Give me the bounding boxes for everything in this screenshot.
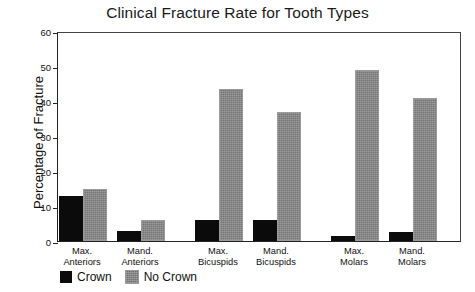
legend-item: Crown [60, 270, 112, 284]
x-axis-label: Mand. Molars [367, 246, 457, 267]
bar-no-crown [141, 220, 165, 241]
fracture-rate-bar-chart: Clinical Fracture Rate for Tooth Types P… [0, 0, 475, 292]
bar-crown [389, 232, 413, 241]
legend-label: No Crown [144, 270, 197, 284]
bar-crown [253, 220, 277, 241]
y-axis-tick-label: 50 [40, 63, 51, 73]
x-axis-label: Mand. Anteriors [95, 246, 185, 267]
bar-crown [195, 220, 219, 241]
bar-crown [117, 231, 141, 242]
legend-item: No Crown [125, 270, 197, 284]
x-axis-label: Mand. Bicuspids [231, 246, 321, 267]
bar-no-crown [277, 112, 301, 242]
bar-crown [331, 236, 355, 241]
legend-label: Crown [77, 270, 112, 284]
chart-title: Clinical Fracture Rate for Tooth Types [0, 4, 475, 22]
legend: CrownNo Crown [60, 270, 197, 284]
plot-area: 0102030405060 [57, 32, 461, 242]
y-axis-tick-label: 10 [40, 203, 51, 213]
y-axis-tick-label: 20 [40, 168, 51, 178]
y-axis-tick-label: 40 [40, 98, 51, 108]
bar-no-crown [219, 89, 243, 241]
no-crown-swatch [125, 270, 139, 284]
y-axis-tick-label: 30 [40, 133, 51, 143]
y-axis-tick [53, 243, 58, 244]
bar-crown [59, 196, 83, 242]
bar-no-crown [355, 70, 379, 242]
bar-no-crown [413, 98, 437, 242]
bar-series-container [58, 33, 460, 241]
bar-no-crown [83, 189, 107, 242]
y-axis-tick-label: 60 [40, 28, 51, 38]
crown-swatch [60, 271, 72, 283]
